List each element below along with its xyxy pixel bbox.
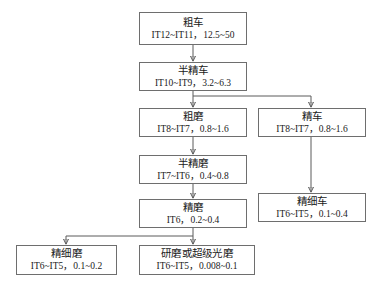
node-title: 精细车	[297, 196, 328, 208]
node-title: 粗磨	[183, 111, 204, 123]
node-rough-turning[interactable]: 粗车 IT12~IT11，12.5~50	[139, 12, 247, 45]
node-title: 粗车	[183, 17, 204, 29]
node-rough-grinding[interactable]: 粗磨 IT8~IT7，0.8~1.6	[139, 108, 247, 137]
node-title: 精细磨	[51, 248, 82, 260]
node-finish-grinding[interactable]: 精磨 IT6，0.2~0.4	[139, 199, 247, 228]
node-title: 精磨	[183, 202, 204, 214]
node-spec: IT8~IT7，0.8~1.6	[276, 124, 347, 135]
node-spec: IT6~IT5，0.008~0.1	[157, 261, 238, 272]
node-spec: IT6~IT5，0.1~0.4	[276, 209, 347, 220]
node-spec: IT6~IT5，0.1~0.2	[31, 261, 102, 272]
node-finish-turning[interactable]: 精车 IT8~IT7，0.8~1.6	[258, 108, 366, 137]
node-fine-turning[interactable]: 精细车 IT6~IT5，0.1~0.4	[258, 193, 366, 222]
edge-finish-grinding-to-fine-grinding	[66, 236, 193, 244]
node-spec: IT12~IT11，12.5~50	[152, 30, 235, 41]
node-spec: IT10~IT9，3.2~6.3	[155, 78, 231, 89]
node-spec: IT8~IT7，0.8~1.6	[157, 124, 228, 135]
node-title: 半精磨	[178, 158, 209, 170]
node-fine-grinding[interactable]: 精细磨 IT6~IT5，0.1~0.2	[16, 245, 117, 275]
node-lapping-superfinish[interactable]: 研磨或超级光磨 IT6~IT5，0.008~0.1	[139, 245, 255, 275]
node-spec: IT6，0.2~0.4	[167, 215, 220, 226]
node-title: 半精车	[178, 65, 209, 77]
edge-semi-finish-turning-to-finish-turning	[193, 96, 311, 107]
node-semi-finish-turning[interactable]: 半精车 IT10~IT9，3.2~6.3	[139, 62, 247, 91]
node-title: 精车	[302, 111, 323, 123]
node-spec: IT7~IT6，0.4~0.8	[157, 171, 228, 182]
flowchart-canvas: 粗车 IT12~IT11，12.5~50 半精车 IT10~IT9，3.2~6.…	[0, 0, 384, 292]
node-semi-finish-grinding[interactable]: 半精磨 IT7~IT6，0.4~0.8	[139, 155, 247, 184]
node-title: 研磨或超级光磨	[161, 248, 233, 260]
